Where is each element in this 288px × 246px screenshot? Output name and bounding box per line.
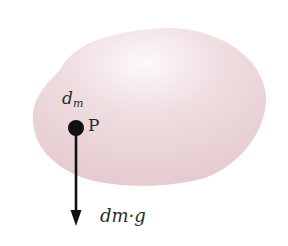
force-label: dm·g — [100, 205, 146, 226]
point-p-marker — [68, 120, 84, 136]
diagram-canvas: dm P dm·g — [0, 0, 288, 246]
force-arrowhead-icon — [71, 210, 82, 226]
point-label: P — [88, 115, 99, 135]
